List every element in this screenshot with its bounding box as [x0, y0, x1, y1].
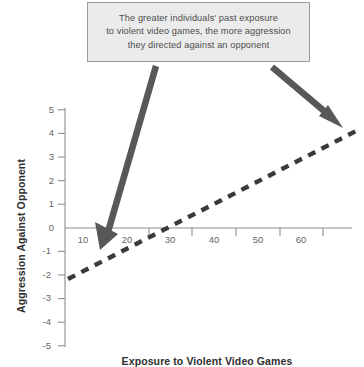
trend-line [68, 130, 358, 279]
y-tick-label: 3 [36, 151, 54, 162]
y-axis-ticks [58, 110, 65, 346]
plot-area [0, 0, 364, 367]
y-tick-label: 1 [36, 198, 54, 209]
x-tick-label: 40 [202, 234, 226, 245]
chart-figure: The greater individuals' past exposure t… [0, 0, 364, 367]
right-arrow [272, 67, 343, 128]
y-tick-label: 0 [36, 222, 54, 233]
y-tick-label: -5 [33, 340, 51, 351]
x-tick-label: 60 [289, 234, 313, 245]
y-tick-label: -4 [33, 316, 51, 327]
y-tick-label: -2 [33, 269, 51, 280]
x-tick-label: 50 [246, 234, 270, 245]
x-axis-title: Exposure to Violent Video Games [60, 355, 354, 367]
y-tick-label: 5 [36, 104, 54, 115]
y-axis-title: Aggression Against Opponent [15, 136, 27, 336]
y-tick-label: 4 [36, 127, 54, 138]
left-arrow [95, 66, 156, 250]
x-tick-label: 20 [115, 234, 139, 245]
y-tick-label: 2 [36, 175, 54, 186]
y-tick-label: -1 [33, 245, 51, 256]
y-tick-label: -3 [33, 292, 51, 303]
x-tick-label: 30 [158, 234, 182, 245]
x-tick-label: 10 [71, 234, 95, 245]
